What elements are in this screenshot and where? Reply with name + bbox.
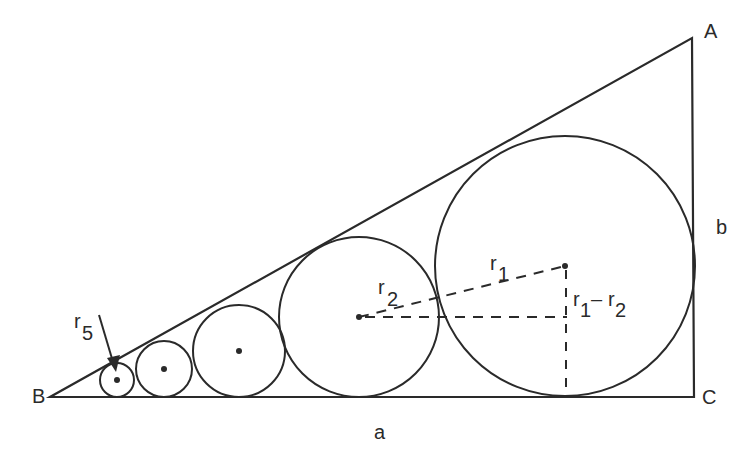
side-label-a: a (374, 421, 386, 443)
vertex-label-b: B (32, 385, 45, 407)
label-r1-minus-r2-minus: – (591, 288, 603, 310)
geometry-diagram: A B C a b r 1 r 2 r 5 r 1 – r 2 (0, 0, 755, 468)
label-r1: r (490, 252, 497, 274)
label-r5: r (74, 310, 81, 332)
side-label-b: b (716, 216, 727, 238)
arrow-r5-shaft (99, 315, 113, 362)
label-r1-minus-r2-sub1: 1 (580, 299, 591, 321)
label-r1-subscript: 1 (498, 263, 509, 285)
center-dot-5 (114, 377, 120, 383)
label-r2: r (378, 276, 385, 298)
label-r5-subscript: 5 (82, 322, 93, 344)
center-dot-4 (161, 366, 167, 372)
label-r2-subscript: 2 (387, 288, 398, 310)
right-triangle-abc (50, 38, 694, 397)
vertex-label-a: A (704, 20, 718, 42)
label-r1-minus-r2-r1: r (573, 288, 580, 310)
center-dot-3 (236, 348, 242, 354)
label-r1-minus-r2-sub2: 2 (615, 299, 626, 321)
vertex-label-c: C (702, 386, 716, 408)
label-r1-minus-r2-r2: r (608, 288, 615, 310)
